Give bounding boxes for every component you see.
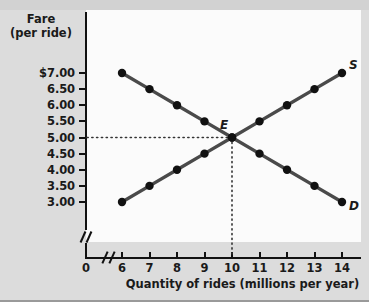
data-point	[145, 182, 153, 190]
equilibrium-guide-lines	[87, 138, 232, 257]
demand-curve-label: D	[349, 199, 359, 213]
data-point	[338, 69, 346, 77]
data-point	[255, 117, 263, 125]
data-point	[200, 149, 208, 157]
data-point	[118, 69, 126, 77]
data-point	[283, 101, 291, 109]
data-point	[255, 149, 263, 157]
data-point	[118, 198, 126, 206]
equilibrium-label: E	[220, 118, 228, 132]
data-point	[338, 198, 346, 206]
x-axis-title: Quantity of rides (millions per year)	[120, 277, 365, 291]
data-point	[228, 133, 236, 141]
bottom-strip	[0, 302, 369, 307]
data-point	[173, 166, 181, 174]
data-point	[310, 182, 318, 190]
chart-figure: Fare (per ride) 3.003.504.004.505.005.50…	[0, 0, 369, 307]
data-point	[173, 101, 181, 109]
supply-curve-label: S	[349, 58, 358, 72]
data-point	[283, 166, 291, 174]
data-point	[310, 85, 318, 93]
curves-layer	[0, 0, 369, 307]
data-point	[200, 117, 208, 125]
data-point	[145, 85, 153, 93]
